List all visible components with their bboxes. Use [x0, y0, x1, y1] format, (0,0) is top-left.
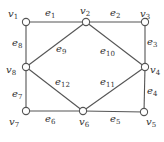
node-label-v1: v1 [8, 8, 18, 21]
node-v5 [140, 108, 147, 115]
node-label-v6: v6 [79, 116, 90, 129]
edge-label-e8: e8 [12, 37, 22, 50]
edge-e5 [83, 111, 144, 112]
edge-label-e1: e1 [45, 7, 55, 20]
edge-e4 [144, 67, 145, 112]
edge-label-e10: e10 [100, 45, 115, 58]
edge-label-e11: e11 [100, 76, 115, 89]
edge-label-e9: e9 [56, 43, 66, 56]
node-v1 [22, 18, 29, 25]
node-label-v8: v8 [6, 64, 16, 77]
edge-label-e3: e3 [147, 36, 157, 49]
edge-e12 [26, 67, 83, 111]
node-label-v7: v7 [9, 116, 19, 129]
nodes-layer [22, 18, 148, 115]
node-label-v2: v2 [80, 5, 90, 18]
edge-e11 [83, 67, 145, 111]
node-v2 [82, 18, 89, 25]
node-v4 [141, 63, 148, 70]
edge-label-e6: e6 [45, 113, 56, 126]
edge-label-e2: e2 [110, 7, 120, 20]
node-v7 [22, 107, 29, 114]
edge-label-e7: e7 [12, 88, 22, 101]
node-label-v4: v4 [150, 64, 161, 77]
edge-e10 [86, 22, 145, 67]
edge-label-e12: e12 [55, 76, 70, 89]
edge-label-e5: e5 [110, 113, 120, 126]
node-v6 [79, 107, 86, 114]
node-label-v5: v5 [146, 116, 156, 129]
edges-layer [26, 22, 145, 112]
edge-label-e4: e4 [147, 85, 158, 98]
node-v8 [22, 63, 29, 70]
node-label-v3: v3 [140, 8, 150, 21]
graph-diagram: e1e2e3e4e5e6e7e8e9e10e11e12v1v2v3v4v5v6v… [0, 0, 164, 142]
